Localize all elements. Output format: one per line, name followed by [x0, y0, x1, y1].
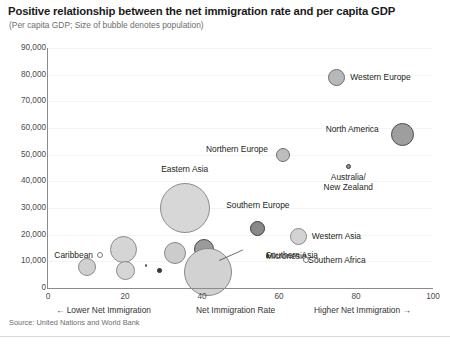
x-axis-tick-label: 80 [336, 292, 376, 301]
bubble-north-america[interactable] [391, 123, 414, 146]
x-axis-tick-label: 100 [413, 292, 450, 301]
bubble-label: Western Europe [350, 72, 410, 82]
bubble-unlabeled[interactable] [78, 258, 96, 276]
y-axis-tick-label: 60,000 [2, 123, 46, 132]
bubble-southern-europe[interactable] [250, 221, 265, 236]
chart-title: Positive relationship between the net im… [8, 4, 444, 18]
gridline [48, 235, 433, 236]
y-axis-tick-label: 0 [2, 283, 46, 292]
x-axis-tick-label: 60 [259, 292, 299, 301]
bubble-unlabeled[interactable] [157, 268, 161, 272]
bubble-label: North America [326, 124, 379, 134]
bubble-unlabeled[interactable] [116, 261, 135, 280]
footer-divider [0, 336, 450, 337]
bubble-unlabeled[interactable] [145, 264, 148, 267]
bubble-label: Caribbean [54, 250, 93, 260]
x-axis-tick-label: 40 [182, 292, 222, 301]
chart-subtitle: (Per capita GDP; Size of bubble denotes … [9, 20, 445, 31]
source-note: Source: United Nations and World Bank [9, 318, 140, 327]
bubble-label: Western Asia [312, 231, 361, 241]
bubble-caribbean[interactable] [97, 252, 103, 258]
x-axis-caption-left: ← Lower Net Immigration [56, 305, 151, 315]
bubble-label: Eastern Asia [125, 164, 245, 174]
bubble-unlabeled[interactable] [110, 236, 137, 263]
bubble-northern-europe[interactable] [276, 148, 290, 162]
bubble-label: Northern Europe [206, 144, 268, 154]
gridline [48, 261, 433, 262]
y-axis-tick-label: 10,000 [2, 256, 46, 265]
bubble-australia-new-zealand[interactable] [346, 164, 352, 170]
x-axis-line [47, 288, 433, 289]
x-axis-tick-label: 20 [105, 292, 145, 301]
gridline [48, 101, 433, 102]
bubble-western-europe[interactable] [328, 69, 345, 86]
y-axis-tick-label: 50,000 [2, 150, 46, 159]
bubble-label: Southern Africa [308, 255, 365, 265]
y-axis-tick-label: 20,000 [2, 230, 46, 239]
gridline [48, 155, 433, 156]
bubble-label: Southern Europe [198, 200, 318, 210]
y-axis-tick-label: 90,000 [2, 43, 46, 52]
y-axis-line [47, 48, 48, 289]
y-axis-tick-label: 40,000 [2, 176, 46, 185]
x-axis-tick-label: 0 [28, 292, 68, 301]
y-axis-tick-label: 80,000 [2, 70, 46, 79]
bubble-western-asia[interactable] [290, 228, 307, 245]
y-axis-tick-label: 30,000 [2, 203, 46, 212]
x-axis-caption-center: Net Immigration Rate [196, 305, 275, 315]
plot-area: Western EuropeNorth AmericaNorthern Euro… [48, 48, 433, 288]
gridline [48, 48, 433, 49]
chart-figure: Positive relationship between the net im… [0, 0, 450, 346]
x-axis-caption-right: Higher Net Immigration → [314, 305, 411, 315]
bubble-label: Micronesia [266, 251, 307, 261]
bubble-label: Australia/ New Zealand [288, 172, 408, 192]
y-axis-tick-label: 70,000 [2, 96, 46, 105]
